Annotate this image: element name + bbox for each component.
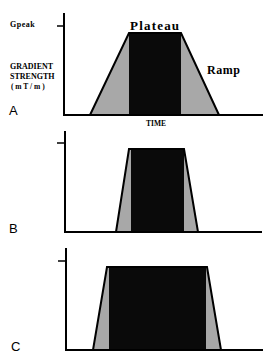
- panel-letter-a: A: [9, 103, 18, 118]
- plateau-area: [131, 149, 184, 232]
- gpeak-label: Gpeak: [10, 20, 35, 29]
- time-label: TIME: [146, 119, 166, 128]
- panel-a: Gpeak GRADIENT STRENGTH ( m T / m ) Plat…: [9, 13, 263, 128]
- panel-b: B: [9, 131, 262, 236]
- panel-letter-b: B: [9, 221, 18, 236]
- y-axis-label-line2: STRENGTH: [10, 72, 55, 81]
- panel-letter-c: C: [11, 339, 20, 354]
- ramp-label: Ramp: [207, 63, 240, 77]
- plateau-area: [109, 267, 206, 350]
- panel-c: C: [11, 248, 263, 354]
- y-axis-label-line3: ( m T / m ): [11, 82, 45, 91]
- gradient-waveform-diagram: Gpeak GRADIENT STRENGTH ( m T / m ) Plat…: [0, 0, 276, 356]
- y-axis-label-line1: GRADIENT: [10, 62, 54, 71]
- plateau-area: [129, 33, 181, 115]
- plateau-label: Plateau: [130, 18, 180, 33]
